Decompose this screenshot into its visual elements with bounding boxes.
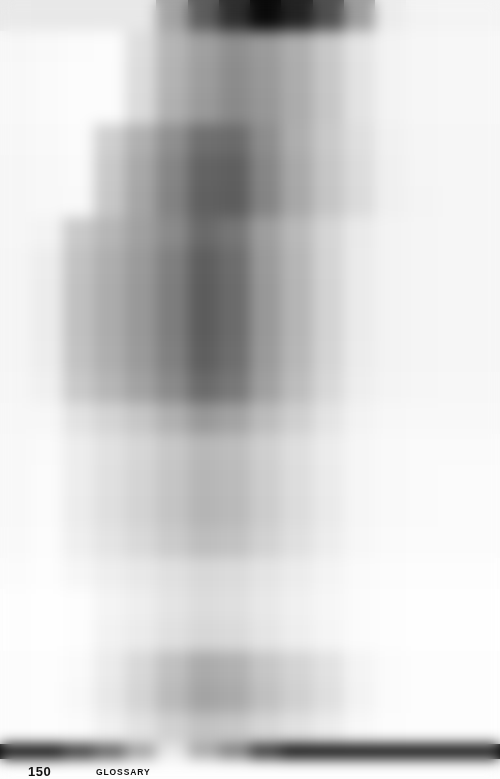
mosaic-cell <box>31 465 62 496</box>
mosaic-cell <box>313 372 344 403</box>
mosaic-cell <box>0 93 31 124</box>
mosaic-cell <box>375 248 406 279</box>
mosaic-cell <box>375 496 406 527</box>
mosaic-cell <box>406 217 437 248</box>
mosaic-cell <box>219 465 250 496</box>
mosaic-cell <box>281 279 312 310</box>
mosaic-cell <box>31 403 62 434</box>
mosaic-cell <box>313 496 344 527</box>
mosaic-cell <box>219 155 250 186</box>
mosaic-cell <box>156 155 187 186</box>
mosaic-cell <box>344 31 375 62</box>
mosaic-cell <box>250 0 281 31</box>
mosaic-cell <box>125 372 156 403</box>
mosaic-cell <box>31 589 62 620</box>
mosaic-cell <box>406 620 437 651</box>
mosaic-cell <box>156 713 187 744</box>
mosaic-cell <box>63 155 94 186</box>
mosaic-cell <box>125 62 156 93</box>
mosaic-cell <box>219 682 250 713</box>
mosaic-cell <box>188 31 219 62</box>
mosaic-cell <box>281 496 312 527</box>
mosaic-cell <box>344 465 375 496</box>
mosaic-cell <box>438 372 469 403</box>
mosaic-cell <box>406 341 437 372</box>
mosaic-cell <box>469 0 500 31</box>
mosaic-cell <box>94 310 125 341</box>
mosaic-cell <box>250 682 281 713</box>
mosaic-cell <box>438 682 469 713</box>
mosaic-cell <box>125 31 156 62</box>
mosaic-cell <box>31 31 62 62</box>
mosaic-cell <box>281 744 312 759</box>
mosaic-cell <box>344 682 375 713</box>
mosaic-cell <box>0 279 31 310</box>
mosaic-cell <box>31 279 62 310</box>
mosaic-cell <box>0 186 31 217</box>
mosaic-cell <box>344 744 375 759</box>
mosaic-cell <box>250 434 281 465</box>
mosaic-cell <box>250 341 281 372</box>
mosaic-cell <box>313 279 344 310</box>
mosaic-cell <box>94 0 125 31</box>
mosaic-cell <box>250 124 281 155</box>
mosaic-cell <box>156 620 187 651</box>
mosaic-cell <box>0 434 31 465</box>
mosaic-cell <box>0 744 31 759</box>
mosaic-cell <box>438 589 469 620</box>
page-number: 150 <box>28 765 51 778</box>
mosaic-cell <box>313 155 344 186</box>
mosaic-cell <box>438 496 469 527</box>
mosaic-cell <box>281 682 312 713</box>
mosaic-cell <box>219 93 250 124</box>
mosaic-cell <box>156 589 187 620</box>
mosaic-cell <box>344 62 375 93</box>
mosaic-cell <box>438 31 469 62</box>
mosaic-cell <box>31 713 62 744</box>
mosaic-cell <box>406 310 437 341</box>
mosaic-cell <box>438 341 469 372</box>
mosaic-cell <box>375 310 406 341</box>
mosaic-cell <box>375 620 406 651</box>
mosaic-cell <box>188 62 219 93</box>
mosaic-cell <box>344 434 375 465</box>
mosaic-cell <box>94 620 125 651</box>
mosaic-cell <box>344 279 375 310</box>
mosaic-cell <box>188 341 219 372</box>
mosaic-cell <box>250 31 281 62</box>
mosaic-cell <box>219 620 250 651</box>
mosaic-cell <box>344 558 375 589</box>
mosaic-cell <box>0 217 31 248</box>
mosaic-cell <box>250 465 281 496</box>
mosaic-cell <box>63 651 94 682</box>
mosaic-cell <box>188 496 219 527</box>
mosaic-cell <box>63 341 94 372</box>
mosaic-cell <box>281 310 312 341</box>
mosaic-cell <box>281 465 312 496</box>
mosaic-cell <box>125 558 156 589</box>
mosaic-cell <box>313 434 344 465</box>
mosaic-cell <box>63 217 94 248</box>
mosaic-cell <box>438 527 469 558</box>
mosaic-cell <box>406 186 437 217</box>
mosaic-cell <box>63 465 94 496</box>
mosaic-cell <box>0 0 31 31</box>
mosaic-cell <box>0 62 31 93</box>
mosaic-cell <box>250 310 281 341</box>
mosaic-cell <box>125 186 156 217</box>
mosaic-cell <box>31 744 62 759</box>
mosaic-cell <box>406 372 437 403</box>
mosaic-cell <box>313 527 344 558</box>
mosaic-cell <box>250 279 281 310</box>
mosaic-cell <box>250 155 281 186</box>
mosaic-cell <box>375 434 406 465</box>
mosaic-cell <box>406 0 437 31</box>
mosaic-cell <box>438 93 469 124</box>
mosaic-cell <box>313 589 344 620</box>
mosaic-cell <box>406 713 437 744</box>
mosaic-cell <box>63 558 94 589</box>
mosaic-cell <box>469 93 500 124</box>
mosaic-cell <box>63 0 94 31</box>
mosaic-cell <box>156 403 187 434</box>
mosaic-cell <box>469 465 500 496</box>
